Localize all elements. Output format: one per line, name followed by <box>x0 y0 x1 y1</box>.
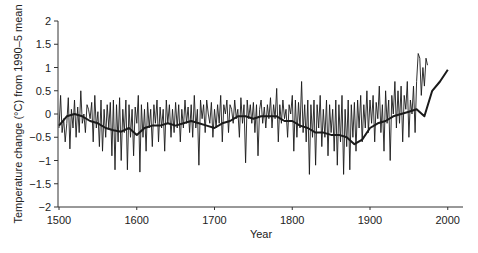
x-tick-label: 1900 <box>358 214 382 226</box>
y-tick-label: 2 <box>45 15 51 27</box>
y-tick-label: 1.5 <box>36 38 51 50</box>
y-tick-label: 0 <box>45 108 51 120</box>
y-tick-label: −1.5 <box>29 178 51 190</box>
x-tick-label: 1800 <box>280 214 304 226</box>
x-tick-label: 1500 <box>47 214 71 226</box>
y-tick-label: −0.5 <box>29 131 51 143</box>
y-axis-title: Temperature change (°C) from 1990–5 mean <box>12 4 24 223</box>
x-tick-label: 1700 <box>202 214 226 226</box>
x-tick-label: 1600 <box>125 214 149 226</box>
y-tick-label: 1 <box>45 62 51 74</box>
x-axis-title: Year <box>250 228 273 240</box>
x-tick-label: 2000 <box>436 214 460 226</box>
x-axis-ticks: 150016001700180019002000 <box>47 207 460 226</box>
temperature-chart: 21.510.50−0.5−1−1.5−2 150016001700180019… <box>0 0 478 253</box>
plot-area <box>59 54 448 175</box>
y-tick-label: −2 <box>38 201 51 213</box>
annual-series-line <box>59 54 428 175</box>
y-tick-label: −1 <box>38 155 51 167</box>
y-tick-label: 0.5 <box>36 85 51 97</box>
y-axis-ticks: 21.510.50−0.5−1−1.5−2 <box>29 15 58 213</box>
